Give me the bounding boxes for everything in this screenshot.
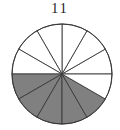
pie-chart bbox=[0, 0, 120, 130]
pie-figure: 11 bbox=[0, 0, 120, 130]
pie-slice-group bbox=[12, 24, 112, 124]
